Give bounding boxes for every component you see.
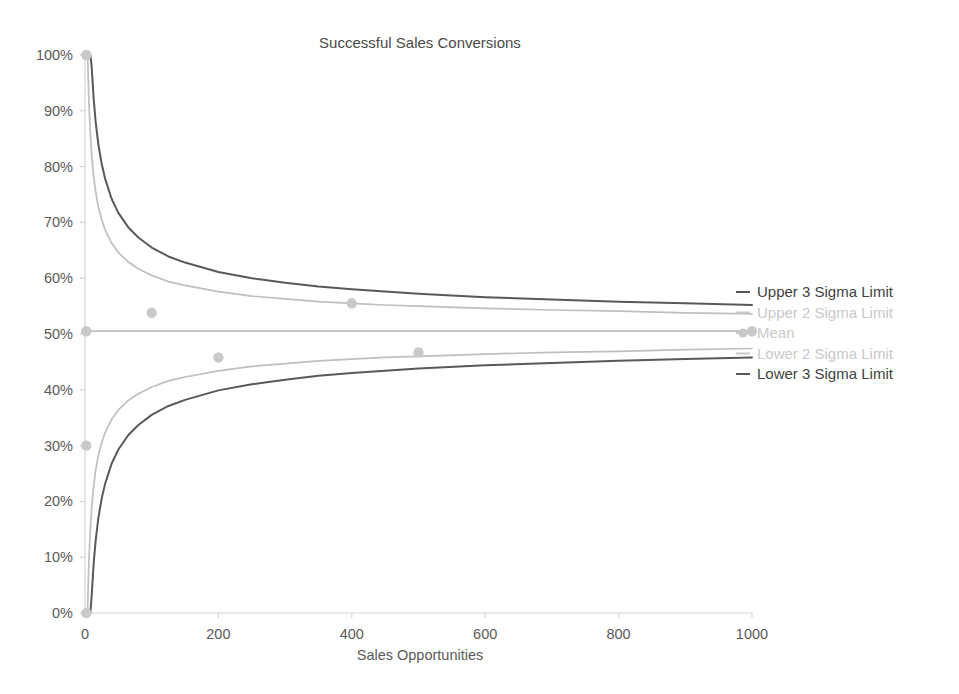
y-axis-tick-label: 90% [44, 103, 73, 119]
y-axis-tick-label: 0% [52, 605, 73, 621]
y-axis-tick-label: 100% [36, 47, 73, 63]
y-axis-tick-label: 70% [44, 214, 73, 230]
series-line-upper-3-sigma-limit [86, 55, 752, 305]
data-series-group [85, 55, 752, 613]
data-point [81, 50, 91, 60]
x-axis-tick-label: 800 [606, 626, 630, 642]
legend-marker-dot [738, 328, 747, 337]
data-point [81, 440, 91, 450]
x-axis-tick-label: 200 [206, 626, 230, 642]
y-axis-tick-label: 60% [44, 270, 73, 286]
data-point [413, 347, 423, 357]
x-axis-tick-label: 0 [81, 626, 89, 642]
chart-legend: Upper 3 Sigma LimitUpper 2 Sigma LimitMe… [736, 283, 894, 382]
series-line-upper-2-sigma-limit [86, 55, 752, 314]
chart-title: Successful Sales Conversions [319, 34, 521, 51]
x-axis-label: Sales Opportunities [357, 647, 484, 663]
series-line-lower-2-sigma-limit [86, 349, 752, 613]
y-axis-tick-group: 0%10%20%30%40%50%60%70%80%90%100% [36, 47, 85, 621]
legend-label: Upper 3 Sigma Limit [757, 283, 894, 300]
y-axis-tick-label: 40% [44, 382, 73, 398]
chart-container: Successful Sales Conversions 0%10%20%30%… [0, 0, 959, 694]
x-axis-tick-label: 400 [340, 626, 364, 642]
x-axis-tick-label: 1000 [736, 626, 768, 642]
y-axis-tick-label: 50% [44, 326, 73, 342]
x-axis-tick-label: 600 [473, 626, 497, 642]
sales-conversion-control-chart: Successful Sales Conversions 0%10%20%30%… [0, 0, 959, 694]
y-axis-tick-label: 30% [44, 438, 73, 454]
observation-points-group [81, 50, 757, 618]
y-axis-tick-label: 80% [44, 159, 73, 175]
data-point [213, 352, 223, 362]
legend-label: Lower 2 Sigma Limit [757, 345, 894, 362]
x-axis-tick-group: 02004006008001000 [81, 613, 768, 642]
y-axis-tick-label: 10% [44, 549, 73, 565]
y-axis-tick-label: 20% [44, 493, 73, 509]
legend-label: Lower 3 Sigma Limit [757, 365, 894, 382]
data-point [81, 608, 91, 618]
data-point [347, 298, 357, 308]
legend-label: Mean [757, 324, 795, 341]
legend-label: Upper 2 Sigma Limit [757, 304, 894, 321]
series-line-lower-3-sigma-limit [86, 357, 752, 613]
data-point [747, 326, 757, 336]
data-point [147, 308, 157, 318]
data-point [81, 326, 91, 336]
